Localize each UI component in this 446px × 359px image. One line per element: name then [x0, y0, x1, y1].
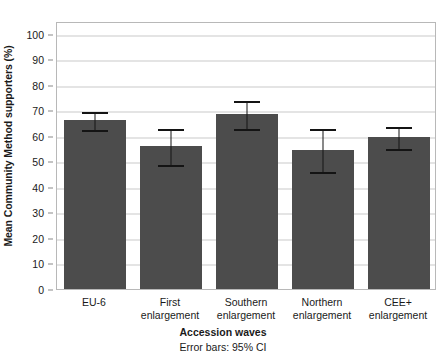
bar-chart-figure: Mean Community Method supporters (%) 010… — [0, 0, 446, 359]
bar — [140, 146, 202, 289]
y-axis-tick-mark — [48, 34, 53, 35]
error-bar-cap-lower — [82, 130, 108, 132]
category-label-line2: enlargement — [208, 309, 284, 322]
x-axis-tick-mark — [171, 289, 172, 290]
y-axis-title-text: Mean Community Method supporters (%) — [2, 45, 14, 246]
y-axis-tick-label: 50 — [32, 156, 44, 168]
y-axis-tick-label: 40 — [32, 182, 44, 194]
error-bar-line — [323, 130, 324, 173]
category-label-line1: CEE+ — [384, 296, 412, 308]
y-axis-tick-mark — [48, 187, 53, 188]
error-bar-cap-upper — [310, 129, 336, 131]
error-bar-cap-lower — [234, 129, 260, 131]
error-bar-cap-upper — [158, 129, 184, 131]
x-axis-category-label: Southernenlargement — [208, 296, 284, 322]
x-axis-tick-mark — [399, 289, 400, 290]
y-axis-title: Mean Community Method supporters (%) — [0, 0, 17, 292]
error-bar-line — [95, 113, 96, 131]
error-bar-line — [399, 128, 400, 150]
y-axis-tick-label: 0 — [38, 284, 44, 296]
y-axis-tick-label: 70 — [32, 105, 44, 117]
x-axis-category-label: Firstenlargement — [132, 296, 208, 322]
category-label-line2: enlargement — [360, 309, 436, 322]
y-axis-tick-mark — [48, 136, 53, 137]
y-axis-tick-mark — [48, 85, 53, 86]
bar-group — [209, 23, 285, 289]
y-axis-tick-label: 90 — [32, 54, 44, 66]
category-label-line1: Northern — [302, 296, 343, 308]
error-bar-cap-lower — [310, 172, 336, 174]
error-bar-line — [171, 130, 172, 166]
y-axis-tick-mark — [48, 213, 53, 214]
y-axis-tick-label: 100 — [26, 29, 44, 41]
x-axis-tick-mark — [95, 289, 96, 290]
x-axis-category-labels: EU-6FirstenlargementSouthernenlargementN… — [56, 296, 436, 330]
y-axis-tick-label: 20 — [32, 233, 44, 245]
y-axis-tick-mark — [48, 238, 53, 239]
error-bar-cap-upper — [82, 112, 108, 114]
y-axis-tick-mark — [48, 162, 53, 163]
y-axis-tick-label: 60 — [32, 131, 44, 143]
error-bar-cap-lower — [386, 149, 412, 151]
y-axis-tick-mark — [48, 111, 53, 112]
error-bar-cap-upper — [386, 127, 412, 129]
y-axis-tick-mark — [48, 60, 53, 61]
bar-group — [285, 23, 361, 289]
bar-group — [361, 23, 436, 289]
error-bar-line — [247, 102, 248, 130]
category-label-line1: EU-6 — [82, 296, 106, 308]
x-axis-category-label: CEE+enlargement — [360, 296, 436, 322]
y-axis-tick-mark — [48, 264, 53, 265]
plot-area — [56, 22, 436, 290]
bar — [64, 120, 126, 289]
y-axis-tick-label: 30 — [32, 207, 44, 219]
y-axis-tick-labels: 0102030405060708090100 — [18, 22, 48, 290]
bar — [216, 114, 278, 289]
category-label-line2: enlargement — [284, 309, 360, 322]
x-axis-category-label: EU-6 — [56, 296, 132, 309]
category-label-line1: First — [160, 296, 180, 308]
bar-series — [57, 23, 435, 289]
x-axis-tick-mark — [247, 289, 248, 290]
x-axis-tick-mark — [323, 289, 324, 290]
y-axis-tick-label: 10 — [32, 258, 44, 270]
error-bar-cap-upper — [234, 101, 260, 103]
bar-group — [57, 23, 133, 289]
error-bar-cap-lower — [158, 165, 184, 167]
bar — [368, 137, 430, 289]
x-axis-title: Accession waves — [0, 326, 446, 338]
chart-caption: Error bars: 95% CI — [0, 341, 446, 353]
x-axis-category-label: Northernenlargement — [284, 296, 360, 322]
category-label-line2: enlargement — [132, 309, 208, 322]
bar-group — [133, 23, 209, 289]
y-axis-tick-mark — [48, 290, 53, 291]
category-label-line1: Southern — [225, 296, 268, 308]
y-axis-tick-label: 80 — [32, 80, 44, 92]
